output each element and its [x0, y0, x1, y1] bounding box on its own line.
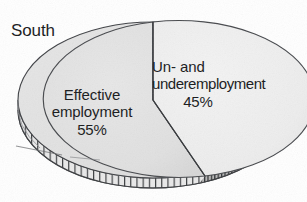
- chart-title: South: [11, 21, 55, 41]
- slice-label-line-1: Un- and: [152, 58, 205, 75]
- slice-label-line-1: Effective: [64, 86, 120, 103]
- slice-value-effective-employment: 55%: [77, 121, 107, 138]
- slice-label-line-2: underemployment: [152, 75, 265, 92]
- slice-label-effective-employment: Effective employment 55%: [36, 86, 148, 138]
- pie-chart-figure: South Effective employment 55% Un- and u…: [0, 0, 307, 202]
- slice-label-line-2: employment: [52, 103, 133, 120]
- slice-value-underemployment: 45%: [152, 93, 244, 110]
- slice-label-underemployment: Un- and underemployment 45%: [152, 58, 298, 110]
